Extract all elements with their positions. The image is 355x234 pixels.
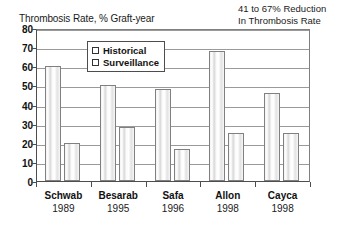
- bar: [45, 66, 61, 181]
- bar: [119, 127, 135, 181]
- bar: [174, 149, 190, 182]
- plot-area: [36, 29, 310, 182]
- annotation-line-1: 41 to 67% Reduction: [238, 3, 326, 15]
- gridline: [37, 49, 309, 50]
- bar: [64, 143, 80, 181]
- annotation-line-2: In Thrombosis Rate: [238, 15, 326, 27]
- y-axis-tick-label: 40: [3, 100, 33, 111]
- bar: [155, 89, 171, 181]
- x-axis-tick-mark: [255, 182, 256, 187]
- x-axis-group-year: 1998: [200, 202, 255, 215]
- x-axis-tick-mark: [91, 182, 92, 187]
- chart-figure: Thrombosis Rate, % Graft-year 41 to 67% …: [0, 0, 355, 234]
- bar: [100, 85, 116, 181]
- y-axis-tick-label: 20: [3, 138, 33, 149]
- x-axis-tick-mark: [36, 182, 37, 187]
- x-axis-group-year: 1989: [36, 202, 91, 215]
- legend-label: Surveillance: [103, 57, 159, 68]
- x-axis-group-safa: Safa1996: [146, 189, 201, 215]
- bar: [264, 93, 280, 181]
- bar: [283, 133, 299, 181]
- y-axis-tick-label: 70: [3, 43, 33, 54]
- y-axis-tick-label: 10: [3, 157, 33, 168]
- x-axis-tick-mark: [200, 182, 201, 187]
- chart-annotation: 41 to 67% Reduction In Thrombosis Rate: [238, 3, 326, 27]
- x-axis-group-besarab: Besarab1995: [91, 189, 146, 215]
- legend-swatch-icon: [92, 59, 99, 66]
- x-axis-group-cayca: Cayca1998: [255, 189, 310, 215]
- x-axis-tick-mark: [146, 182, 147, 187]
- gridline: [37, 87, 309, 88]
- y-axis-tick-label: 30: [3, 119, 33, 130]
- legend-item-surveillance: Surveillance: [92, 56, 159, 68]
- x-axis-group-allon: Allon1998: [200, 189, 255, 215]
- x-axis-group-name: Safa: [146, 189, 201, 202]
- y-axis-tick-label: 50: [3, 81, 33, 92]
- chart-legend: Historical Surveillance: [87, 41, 165, 72]
- legend-label: Historical: [103, 45, 146, 56]
- x-axis-group-name: Cayca: [255, 189, 310, 202]
- bar: [228, 133, 244, 181]
- x-axis-tick-mark: [310, 182, 311, 187]
- legend-item-historical: Historical: [92, 44, 159, 56]
- x-axis-group-year: 1996: [146, 202, 201, 215]
- x-axis-group-schwab: Schwab1989: [36, 189, 91, 215]
- x-axis-group-name: Allon: [200, 189, 255, 202]
- x-axis-group-year: 1995: [91, 202, 146, 215]
- y-axis-tick-label: 80: [3, 24, 33, 35]
- legend-swatch-icon: [92, 47, 99, 54]
- y-axis-tick-label: 60: [3, 62, 33, 73]
- chart-axis-title: Thrombosis Rate, % Graft-year: [19, 13, 154, 24]
- gridline: [37, 30, 309, 31]
- y-axis-tick-label: 0: [3, 177, 33, 188]
- bar: [209, 51, 225, 181]
- gridline: [37, 68, 309, 69]
- x-axis-group-year: 1998: [255, 202, 310, 215]
- x-axis-group-name: Besarab: [91, 189, 146, 202]
- x-axis-group-name: Schwab: [36, 189, 91, 202]
